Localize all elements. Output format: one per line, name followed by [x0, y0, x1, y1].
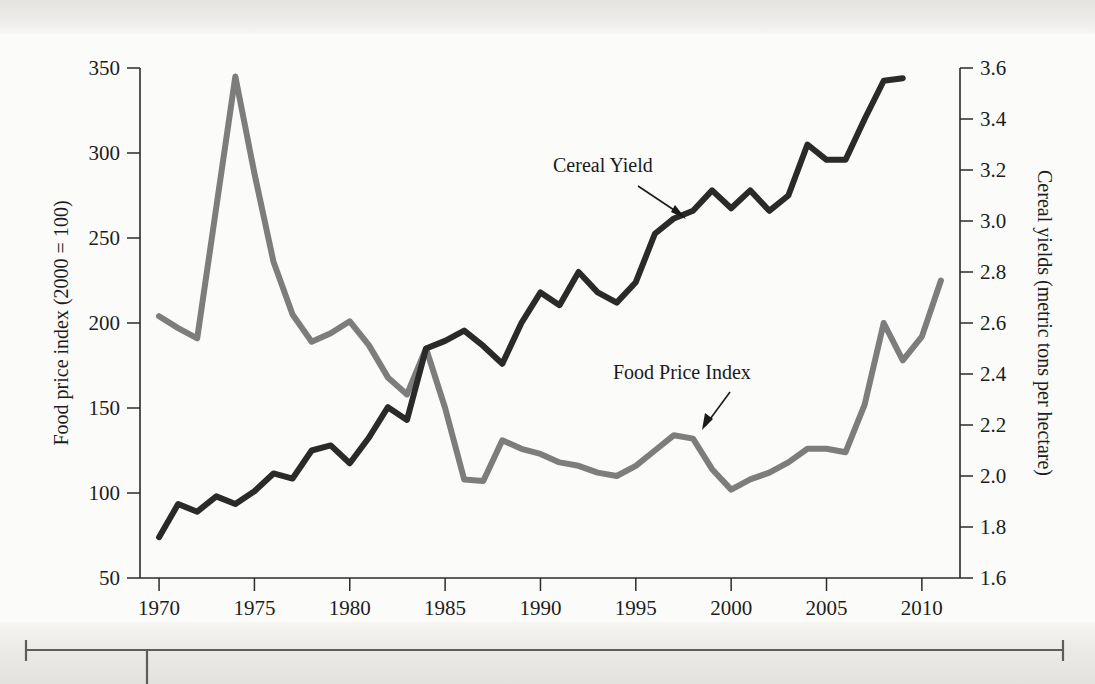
right-axis-tick-labels: 1.61.82.02.22.42.62.83.03.23.43.6 — [980, 56, 1007, 590]
x-axis: 197019751980198519901995200020052010 — [138, 578, 960, 620]
x-axis-tick-label: 1975 — [233, 596, 275, 620]
right-axis-tick-label: 2.4 — [980, 362, 1007, 386]
right-axis-tick-label: 2.8 — [980, 260, 1006, 284]
annotation-label-cereal-yield: Cereal Yield — [553, 154, 653, 176]
right-axis-tick-label: 2.6 — [980, 311, 1006, 335]
x-axis-tick-label: 2005 — [806, 596, 848, 620]
left-axis-title: Food price index (2000 = 100) — [50, 200, 73, 445]
x-axis-ticks — [159, 578, 922, 591]
series-group — [159, 77, 941, 538]
dual-axis-line-chart: 50100150200250300350 Food price index (2… — [0, 0, 1095, 684]
x-axis-tick-label: 1970 — [138, 596, 180, 620]
annotation-cereal-yield: Cereal Yield — [553, 154, 686, 219]
left-axis: 50100150200250300350 Food price index (2… — [50, 56, 140, 590]
figure-page: 50100150200250300350 Food price index (2… — [0, 0, 1095, 684]
right-axis-tick-label: 2.0 — [980, 464, 1006, 488]
annotation-arrowhead-food-price-index — [702, 413, 713, 430]
left-axis-tick-label: 150 — [89, 396, 121, 420]
left-axis-tick-label: 100 — [89, 481, 121, 505]
left-axis-tick-label: 250 — [89, 226, 121, 250]
right-axis-title: Cereal yields (metric tons per hectare) — [1033, 170, 1056, 476]
left-axis-tick-label: 350 — [89, 56, 121, 80]
right-axis-tick-label: 3.0 — [980, 209, 1006, 233]
chart-svg: 50100150200250300350 Food price index (2… — [0, 0, 1095, 684]
x-axis-tick-label: 1995 — [615, 596, 657, 620]
x-axis-tick-labels: 197019751980198519901995200020052010 — [138, 596, 943, 620]
left-axis-ticks — [127, 68, 140, 578]
right-axis-tick-label: 3.4 — [980, 107, 1007, 131]
right-axis-tick-label: 2.2 — [980, 413, 1006, 437]
x-axis-tick-label: 2000 — [710, 596, 752, 620]
x-axis-tick-label: 1980 — [329, 596, 371, 620]
series-line-cereal-yield — [159, 78, 903, 537]
right-axis-ticks — [960, 68, 973, 578]
x-axis-tick-label: 2010 — [901, 596, 943, 620]
annotation-food-price-index: Food Price Index — [613, 361, 751, 430]
x-axis-tick-label: 1985 — [424, 596, 466, 620]
right-axis: 1.61.82.02.22.42.62.83.03.23.43.6 Cereal… — [960, 56, 1056, 590]
page-rule — [26, 640, 1063, 684]
left-axis-tick-labels: 50100150200250300350 — [89, 56, 121, 590]
right-axis-tick-label: 1.6 — [980, 566, 1006, 590]
annotation-label-food-price-index: Food Price Index — [613, 361, 751, 383]
right-axis-tick-label: 1.8 — [980, 515, 1006, 539]
right-axis-tick-label: 3.6 — [980, 56, 1006, 80]
left-axis-tick-label: 200 — [89, 311, 121, 335]
left-axis-tick-label: 50 — [99, 566, 120, 590]
series-line-food-price-index — [159, 77, 941, 490]
left-axis-tick-label: 300 — [89, 141, 121, 165]
right-axis-tick-label: 3.2 — [980, 158, 1006, 182]
x-axis-tick-label: 1990 — [519, 596, 561, 620]
